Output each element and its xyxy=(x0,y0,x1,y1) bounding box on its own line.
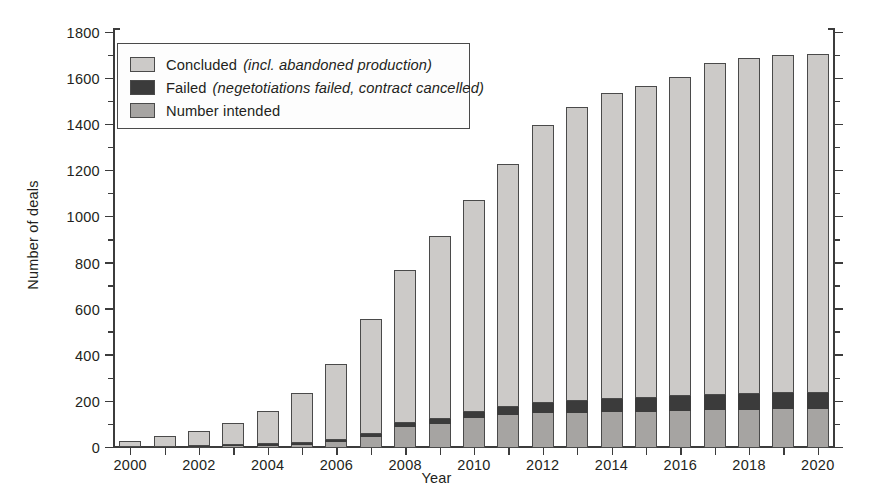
bar-segment-concluded-2008 xyxy=(394,270,416,423)
bar-segment-concluded-2012 xyxy=(532,125,554,403)
y-tick-right-1500 xyxy=(835,101,840,102)
y-tick-right-1000 xyxy=(835,216,843,217)
chart-root: Number of deals 020040060080010001200140… xyxy=(0,0,873,502)
legend-item-failed: Failed (negetotiations failed, contract … xyxy=(130,76,469,99)
y-tick-label-800: 800 xyxy=(40,256,100,272)
x-tick-2019 xyxy=(783,448,784,455)
y-tick-left-500 xyxy=(108,331,113,332)
y-tick-left-1700 xyxy=(108,55,113,56)
bar-segment-intended-2017 xyxy=(704,410,726,448)
x-tick-2002 xyxy=(199,448,200,455)
bar-segment-intended-2012 xyxy=(532,413,554,448)
bar-segment-concluded-2002 xyxy=(188,431,210,446)
y-tick-label-600: 600 xyxy=(40,302,100,318)
bar-segment-concluded-2000 xyxy=(119,441,141,447)
bar-2012 xyxy=(532,125,554,448)
y-tick-label-200: 200 xyxy=(40,394,100,410)
x-tick-2001 xyxy=(165,448,166,455)
bar-segment-failed-2017 xyxy=(704,395,726,410)
y-tick-left-1800 xyxy=(105,32,113,33)
y-tick-right-0 xyxy=(835,447,843,448)
x-tick-2004 xyxy=(268,448,269,455)
bar-segment-intended-2018 xyxy=(738,410,760,448)
bar-segment-intended-2016 xyxy=(669,411,691,448)
y-tick-left-700 xyxy=(108,285,113,286)
x-tick-2003 xyxy=(233,448,234,455)
bar-2018 xyxy=(738,58,760,448)
y-tick-right-1300 xyxy=(835,147,840,148)
bar-segment-concluded-2005 xyxy=(291,393,313,443)
bar-segment-concluded-2020 xyxy=(807,54,829,393)
y-tick-left-900 xyxy=(108,239,113,240)
bar-segment-concluded-2006 xyxy=(325,364,347,440)
y-tick-right-200 xyxy=(835,401,843,402)
x-tick-2005 xyxy=(302,448,303,455)
bar-2004 xyxy=(257,411,279,448)
x-axis-title-text: Year xyxy=(421,470,451,486)
legend-label-intended: Number intended xyxy=(166,103,280,119)
bar-2001 xyxy=(154,436,176,448)
bar-2009 xyxy=(429,236,451,448)
bar-2013 xyxy=(566,107,588,448)
y-tick-right-1200 xyxy=(835,170,843,171)
bar-2016 xyxy=(669,77,691,448)
legend-item-concluded: Concluded (incl. abandoned production) xyxy=(130,53,469,76)
y-tick-label-1200: 1200 xyxy=(40,163,100,179)
bar-segment-failed-2007 xyxy=(360,434,382,437)
y-tick-right-1700 xyxy=(835,55,840,56)
y-tick-label-0: 0 xyxy=(40,440,100,456)
y-tick-right-100 xyxy=(835,424,840,425)
y-tick-left-1200 xyxy=(105,170,113,171)
y-axis-right-line xyxy=(833,28,835,448)
y-tick-right-1800 xyxy=(835,32,843,33)
bar-segment-intended-2013 xyxy=(566,413,588,448)
y-axis-title-text: Number of deals xyxy=(25,180,41,289)
x-tick-2009 xyxy=(440,448,441,455)
y-tick-right-300 xyxy=(835,378,840,379)
bar-segment-intended-2010 xyxy=(463,418,485,448)
x-tick-2020 xyxy=(818,448,819,455)
bar-2005 xyxy=(291,393,313,448)
x-tick-2017 xyxy=(715,448,716,455)
y-tick-left-400 xyxy=(105,354,113,355)
bar-segment-intended-2011 xyxy=(497,415,519,448)
bar-2003 xyxy=(222,423,244,448)
bar-segment-failed-2019 xyxy=(772,393,794,409)
y-tick-left-600 xyxy=(105,308,113,309)
legend-swatch-concluded xyxy=(130,57,155,72)
bar-2011 xyxy=(497,164,519,448)
bar-segment-failed-2003 xyxy=(222,445,244,446)
bar-segment-intended-2019 xyxy=(772,409,794,448)
y-tick-left-200 xyxy=(105,401,113,402)
y-tick-left-1600 xyxy=(105,78,113,79)
x-tick-2013 xyxy=(577,448,578,455)
bar-segment-intended-2015 xyxy=(635,412,657,448)
bar-segment-concluded-2019 xyxy=(772,55,794,393)
bar-2010 xyxy=(463,200,485,448)
bar-segment-failed-2014 xyxy=(601,399,623,412)
y-tick-left-1000 xyxy=(105,216,113,217)
bar-2015 xyxy=(635,86,657,448)
bar-segment-concluded-2013 xyxy=(566,107,588,401)
y-tick-right-700 xyxy=(835,285,840,286)
x-tick-2012 xyxy=(543,448,544,455)
y-tick-label-1800: 1800 xyxy=(40,25,100,41)
bar-segment-concluded-2014 xyxy=(601,93,623,399)
bar-2014 xyxy=(601,93,623,448)
legend-note-failed: (negetotiations failed, contract cancell… xyxy=(213,80,484,96)
bar-segment-concluded-2011 xyxy=(497,164,519,406)
y-tick-left-1300 xyxy=(108,147,113,148)
legend-swatch-failed xyxy=(130,80,155,95)
bar-segment-failed-2018 xyxy=(738,394,760,410)
bar-segment-intended-2007 xyxy=(360,437,382,448)
bar-2006 xyxy=(325,364,347,448)
y-tick-right-800 xyxy=(835,262,843,263)
bar-2008 xyxy=(394,270,416,448)
bar-2017 xyxy=(704,63,726,448)
y-tick-right-600 xyxy=(835,308,843,309)
y-tick-right-900 xyxy=(835,239,840,240)
y-tick-left-1100 xyxy=(108,193,113,194)
y-axis-left-cap xyxy=(113,28,120,30)
legend-swatch-intended xyxy=(130,103,155,118)
x-tick-2014 xyxy=(612,448,613,455)
